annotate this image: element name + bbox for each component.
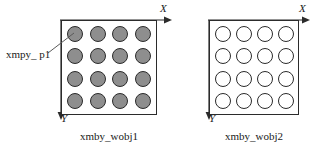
- circle-cell: [90, 48, 106, 64]
- circle-cell: [135, 93, 151, 109]
- object-group-wobj1: X Y: [0, 0, 180, 151]
- circle-cell: [90, 26, 106, 42]
- circle-cell: [67, 93, 83, 109]
- circle-cell: [215, 71, 231, 87]
- circle-cell: [257, 26, 273, 42]
- circle-cell: [278, 71, 294, 87]
- x-axis-label-wobj1: X: [160, 3, 167, 14]
- circle-cell: [112, 71, 128, 87]
- circle-cell: [257, 48, 273, 64]
- circle-cell: [257, 93, 273, 109]
- circle-cell: [112, 93, 128, 109]
- circle-cell: [67, 71, 83, 87]
- circle-grid-wobj2: [212, 23, 296, 112]
- circle-cell: [135, 26, 151, 42]
- circle-cell: [135, 48, 151, 64]
- circle-cell: [112, 26, 128, 42]
- circle-grid-wobj1: [64, 23, 154, 112]
- circle-cell: [278, 26, 294, 42]
- circle-cell: [236, 48, 252, 64]
- circle-cell: [135, 71, 151, 87]
- x-axis-label-wobj2: X: [299, 3, 306, 14]
- circle-cell: [215, 93, 231, 109]
- circle-cell: [215, 48, 231, 64]
- circle-cell: [278, 48, 294, 64]
- callout-label-p1: xmpy_ p1: [6, 49, 50, 60]
- circle-cell: [236, 93, 252, 109]
- circle-cell: [236, 71, 252, 87]
- circle-cell: [257, 71, 273, 87]
- circle-cell: [236, 26, 252, 42]
- circle-cell: [90, 93, 106, 109]
- circle-cell: [67, 26, 83, 42]
- diagram-canvas: X Y: [0, 0, 322, 151]
- circle-cell: [90, 71, 106, 87]
- caption-wobj2: xmby_wobj2: [209, 131, 299, 142]
- circle-cell: [278, 93, 294, 109]
- caption-wobj1: xmby_wobj1: [61, 131, 157, 142]
- object-group-wobj2: X Y xmby_wobj2: [180, 0, 322, 151]
- circle-cell: [67, 48, 83, 64]
- circle-cell: [215, 26, 231, 42]
- circle-cell: [112, 48, 128, 64]
